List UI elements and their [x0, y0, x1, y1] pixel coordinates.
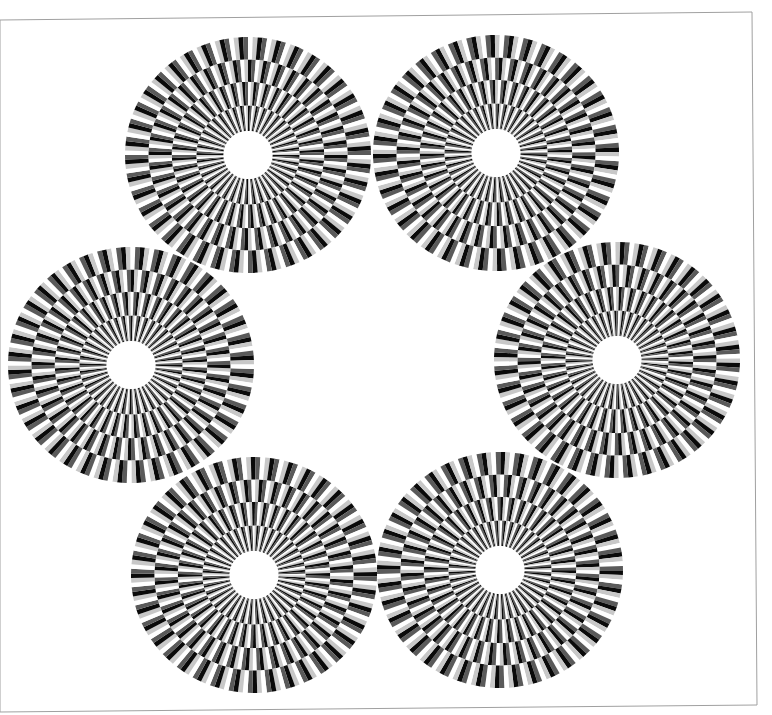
disk-bottom-left — [131, 457, 377, 693]
disk-center-hole — [107, 341, 155, 389]
disk-middle-right — [494, 242, 740, 478]
disk-top-right — [373, 35, 619, 271]
disk-center-hole — [476, 546, 524, 594]
disk-middle-left — [8, 247, 254, 483]
disk-bottom-right — [377, 452, 623, 688]
illusion-canvas — [0, 0, 772, 715]
disk-center-hole — [472, 129, 520, 177]
disk-center-hole — [230, 551, 278, 599]
disks-layer — [8, 35, 740, 693]
disk-top-left — [125, 37, 371, 273]
disk-center-hole — [593, 336, 641, 384]
disk-center-hole — [224, 131, 272, 179]
illusion-drawing — [0, 0, 772, 715]
